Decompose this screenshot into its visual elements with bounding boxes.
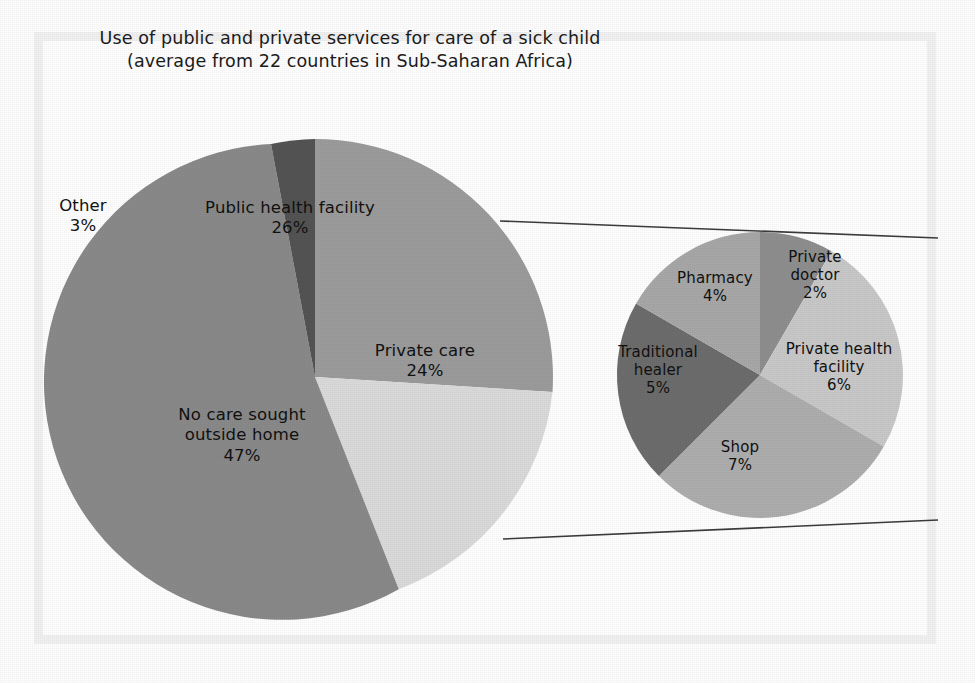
secondary-label-shop: Shop 7% [692,438,788,474]
secondary-label-private-health-facility-value: 6% [764,376,914,394]
secondary-label-private-doctor-line-2: doctor [760,266,870,284]
secondary-label-private-health-facility: Private health facility 6% [764,340,914,394]
secondary-label-shop-value: 7% [692,456,788,474]
main-label-no-care-sought: No care sought outside home 47% [122,405,362,466]
main-label-no-care-sought-line-1: No care sought [122,405,362,425]
leader-line-top [500,221,938,238]
secondary-label-private-health-facility-line-1: Private health [764,340,914,358]
secondary-label-private-health-facility-line-2: facility [764,358,914,376]
main-label-public-health-facility-name: Public health facility [165,198,415,218]
main-label-other-value: 3% [35,216,131,236]
main-label-private-care-name: Private care [330,341,520,361]
main-label-no-care-sought-line-2: outside home [122,425,362,445]
pie-chart-figure: Use of public and private services for c… [0,0,975,683]
leader-line-bottom [503,520,938,539]
secondary-label-private-doctor: Private doctor 2% [760,248,870,302]
secondary-label-private-doctor-line-1: Private [760,248,870,266]
main-label-public-health-facility: Public health facility 26% [165,198,415,239]
secondary-label-shop-name: Shop [692,438,788,456]
secondary-label-traditional-healer-line-2: healer [596,361,720,379]
secondary-label-traditional-healer-value: 5% [596,379,720,397]
main-label-other-name: Other [35,196,131,216]
secondary-label-private-doctor-value: 2% [760,284,870,302]
secondary-label-traditional-healer: Traditional healer 5% [596,343,720,397]
main-label-no-care-sought-value: 47% [122,446,362,466]
main-label-public-health-facility-value: 26% [165,218,415,238]
secondary-label-traditional-healer-line-1: Traditional [596,343,720,361]
main-label-private-care-value: 24% [330,361,520,381]
main-label-other: Other 3% [35,196,131,237]
main-label-private-care: Private care 24% [330,341,520,382]
